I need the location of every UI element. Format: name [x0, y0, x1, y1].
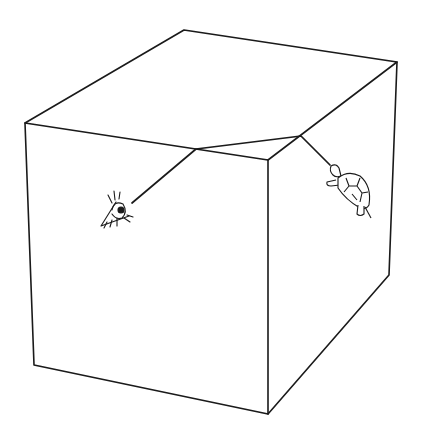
eye-icon — [101, 191, 133, 228]
box-top-face — [25, 30, 397, 160]
box — [25, 30, 397, 414]
shortest-path — [132, 136, 330, 203]
box-diagram — [0, 0, 423, 433]
diagram-canvas — [0, 0, 423, 433]
box-front-face — [25, 123, 268, 414]
box-side-face — [268, 62, 397, 414]
turtle-icon — [327, 165, 371, 218]
